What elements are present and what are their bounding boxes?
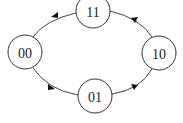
edge-00-to-01 (33, 68, 78, 95)
node-label: 00 (18, 46, 32, 61)
node-10: 10 (142, 36, 176, 70)
node-11: 11 (76, 0, 110, 28)
node-label: 11 (86, 5, 99, 20)
arrowhead-icon (51, 12, 58, 18)
state-diagram: 00 01 10 11 (0, 0, 183, 123)
edge-10-to-11 (110, 11, 152, 37)
node-01: 01 (78, 79, 112, 113)
node-label: 01 (88, 90, 102, 105)
edge-11-to-00 (33, 12, 76, 37)
node-label: 10 (152, 47, 166, 62)
node-00: 00 (8, 35, 42, 69)
arrowhead-icon (131, 84, 138, 90)
edge-01-to-10 (112, 69, 152, 94)
